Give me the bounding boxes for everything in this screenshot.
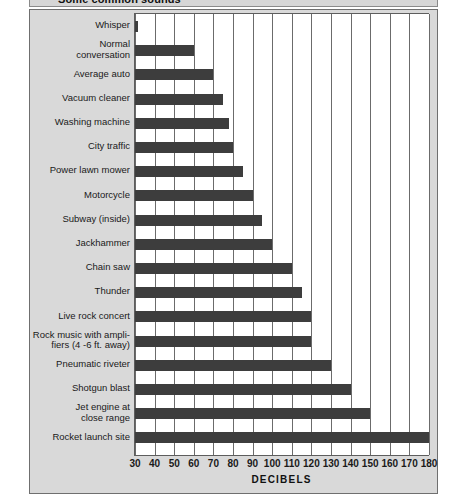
x-tick-label: 90 [247, 458, 258, 469]
category-label: City traffic [0, 141, 130, 152]
gridline [429, 14, 430, 455]
category-label: Thunder [0, 286, 130, 297]
category-label-column: WhisperNormal conversationAverage autoVa… [30, 10, 134, 456]
category-label: Shotgun blast [0, 383, 130, 394]
bar [135, 166, 243, 177]
x-tick-label: 120 [303, 458, 320, 469]
category-label: Power lawn mower [0, 165, 130, 176]
x-tick-label: 170 [401, 458, 418, 469]
bar [135, 263, 292, 274]
chart-panel: WhisperNormal conversationAverage autoVa… [29, 9, 438, 494]
bar [135, 190, 253, 201]
bar [135, 239, 272, 250]
bar [135, 311, 311, 322]
bar [135, 118, 229, 129]
bar [135, 69, 213, 80]
chart-title: Some common sounds [58, 0, 181, 5]
x-tick-label: 130 [323, 458, 340, 469]
category-label: Pneumatic riveter [0, 359, 130, 370]
bar [135, 360, 331, 371]
gridline [351, 14, 352, 455]
category-label: Motorcycle [0, 190, 130, 201]
category-label: Washing machine [0, 117, 130, 128]
bar [135, 94, 223, 105]
x-tick-label: 70 [208, 458, 219, 469]
x-tick-label: 40 [149, 458, 160, 469]
x-tick-label: 60 [188, 458, 199, 469]
category-label: Average auto [0, 69, 130, 80]
bar [135, 142, 233, 153]
gridline [390, 14, 391, 455]
category-label: Subway (inside) [0, 214, 130, 225]
x-tick-label: 80 [227, 458, 238, 469]
bar [135, 287, 302, 298]
category-label: Live rock concert [0, 311, 130, 322]
x-tick-label: 150 [362, 458, 379, 469]
x-tick-label: 30 [129, 458, 140, 469]
bar [135, 45, 194, 56]
x-tick-label: 50 [169, 458, 180, 469]
x-tick-label: 110 [284, 458, 300, 469]
bar [135, 336, 311, 347]
category-label: Whisper [0, 20, 130, 31]
plot-area [134, 13, 429, 456]
x-tick-label: 180 [421, 458, 438, 469]
category-label: Rocket launch site [0, 432, 130, 443]
gridline [370, 14, 371, 455]
category-label: Jet engine at close range [0, 402, 130, 423]
category-label: Rock music with ampli- fiers (4 -6 ft. a… [0, 330, 130, 351]
gridline [409, 14, 410, 455]
chart-page: Some common sounds WhisperNormal convers… [0, 0, 449, 503]
x-axis-title: DECIBELS [134, 474, 429, 485]
bar [135, 408, 370, 419]
x-tick-label: 100 [264, 458, 281, 469]
x-tick-label: 160 [381, 458, 398, 469]
category-label: Normal conversation [0, 39, 130, 60]
category-label: Vacuum cleaner [0, 93, 130, 104]
x-axis: DECIBELS 3040506070809010011012013014015… [134, 458, 431, 494]
category-label: Chain saw [0, 262, 130, 273]
category-label: Jackhammer [0, 238, 130, 249]
x-tick-label: 140 [342, 458, 359, 469]
chart-title-bar: Some common sounds [29, 0, 438, 7]
bar [135, 21, 138, 32]
bar [135, 384, 351, 395]
bar [135, 432, 429, 443]
bar [135, 215, 262, 226]
